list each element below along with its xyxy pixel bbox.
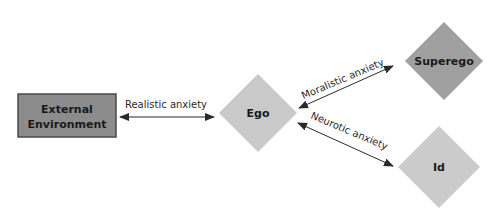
ego-node: Ego	[219, 74, 297, 152]
id-label: Id	[433, 161, 445, 174]
realistic-anxiety-edge: Realistic anxiety	[120, 99, 214, 117]
external-environment-node: External Environment	[18, 94, 116, 137]
neurotic-anxiety-label: Neurotic anxiety	[309, 110, 389, 152]
diagram-canvas: External Environment Realistic anxiety E…	[0, 0, 502, 211]
ego-label: Ego	[247, 107, 270, 120]
external-environment-label-line2: Environment	[27, 118, 106, 131]
superego-label: Superego	[414, 55, 474, 68]
anxiety-diagram: External Environment Realistic anxiety E…	[0, 0, 502, 211]
external-environment-label-line1: External	[41, 103, 93, 116]
moralistic-anxiety-label: Moralistic anxiety	[300, 56, 386, 101]
realistic-anxiety-label: Realistic anxiety	[125, 99, 207, 110]
superego-node: Superego	[405, 22, 483, 100]
moralistic-anxiety-edge: Moralistic anxiety	[299, 56, 393, 108]
neurotic-anxiety-edge: Neurotic anxiety	[298, 110, 393, 166]
id-node: Id	[398, 126, 480, 208]
